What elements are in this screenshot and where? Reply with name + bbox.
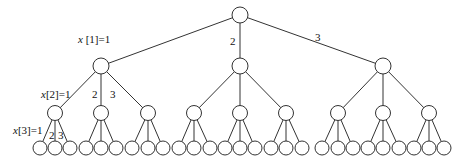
tree-node (375, 58, 391, 74)
leaf-node (125, 141, 139, 155)
leaf-node (109, 141, 123, 155)
leaf-node (315, 141, 329, 155)
tree-edge (338, 66, 383, 113)
tree-node (376, 106, 391, 121)
leaf-node (407, 141, 421, 155)
edge-label-x3-3: 3 (58, 129, 64, 141)
tree-node (93, 58, 109, 74)
edge-label-x2-2: 2 (92, 88, 98, 100)
tree-node (48, 106, 63, 121)
leaf-node (141, 141, 155, 155)
leaf-node (172, 141, 186, 155)
tree-node (232, 58, 248, 74)
leaf-node (248, 141, 262, 155)
tree-edge (383, 66, 429, 113)
leaf-node (48, 141, 62, 155)
leaf-node (264, 141, 278, 155)
leaf-node (346, 141, 360, 155)
leaf-node (331, 141, 345, 155)
state-space-tree: x [1]=123x[2]=123x[3]=123 (0, 0, 458, 165)
tree-node (279, 106, 294, 121)
tree-node (233, 106, 248, 121)
leaf-node (279, 141, 293, 155)
edge-label-x1-3: 3 (315, 31, 321, 43)
tree-edge (194, 66, 240, 113)
leaf-node (94, 141, 108, 155)
leaf-node (392, 141, 406, 155)
edge-label-x1-2: 2 (230, 35, 236, 47)
root-node (232, 7, 248, 23)
tree-node (422, 106, 437, 121)
leaf-node (361, 141, 375, 155)
edge-labels: x [1]=123x[2]=123x[3]=123 (12, 31, 321, 141)
leaf-node (422, 141, 436, 155)
leaf-node (295, 141, 309, 155)
leaf-node (33, 141, 47, 155)
edge-label-x3-eq-1: x[3]=1 (12, 124, 42, 136)
leaf-node (187, 141, 201, 155)
tree-edge (240, 15, 383, 66)
edge-label-x2-3: 3 (110, 88, 116, 100)
tree-nodes (33, 7, 451, 155)
tree-node (141, 106, 156, 121)
leaf-node (156, 141, 170, 155)
leaf-node (233, 141, 247, 155)
leaf-node (63, 141, 77, 155)
leaf-node (437, 141, 451, 155)
tree-edge (101, 66, 148, 113)
tree-node (94, 106, 109, 121)
tree-edge (101, 15, 240, 66)
tree-edge (240, 66, 286, 113)
edge-label-x3-2: 2 (49, 129, 55, 141)
leaf-node (203, 141, 217, 155)
leaf-node (79, 141, 93, 155)
leaf-node (218, 141, 232, 155)
leaf-node (376, 141, 390, 155)
edge-label-x2-eq-1: x[2]=1 (40, 88, 70, 100)
tree-node (331, 106, 346, 121)
edge-label-x1-eq-1: x [1]=1 (77, 33, 110, 45)
tree-node (187, 106, 202, 121)
